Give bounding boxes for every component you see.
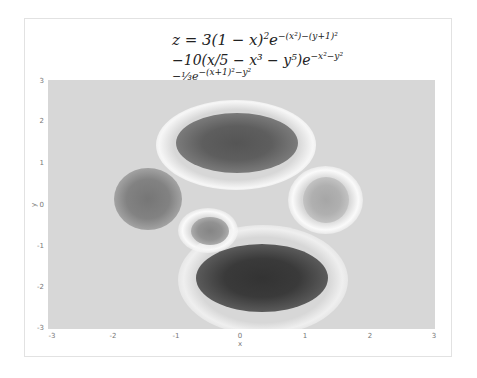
title-line-1: z = 3(1 − x)2e−(x²)−(y+1)² [172,32,338,48]
x-tick: -2 [110,332,117,340]
region-bottom-dark [196,244,328,312]
y-tick: 3 [36,77,44,85]
y-tick: -2 [36,283,44,291]
region-left-medium [114,168,182,230]
y-tick: 2 [36,117,44,125]
y-tick: 1 [36,159,44,167]
heatmap-plot-area [48,80,435,329]
x-tick: 1 [303,332,307,340]
region-top-dark [176,113,298,173]
y-axis-label: y [30,203,38,207]
x-tick: 0 [238,332,242,340]
y-tick: -3 [36,324,44,332]
x-tick: -3 [49,332,56,340]
y-tick: -1 [36,242,44,250]
x-axis-label: x [238,340,242,348]
region-right-light [303,177,349,223]
title-line-2: −10(x/5 − x³ − y⁵)e−x²−y² [172,52,343,67]
x-tick: -1 [173,332,180,340]
x-tick: 3 [432,332,436,340]
x-tick: 2 [368,332,372,340]
region-small-medium [191,217,229,245]
